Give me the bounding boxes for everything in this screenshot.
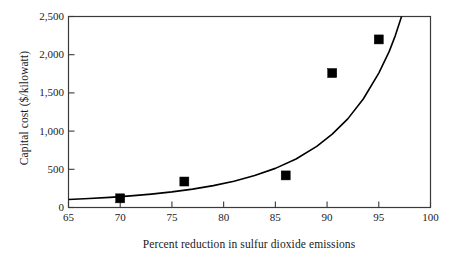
plot-frame [69, 17, 431, 208]
data-point-marker [180, 177, 189, 186]
tick-marks [69, 17, 431, 208]
axes-frame [69, 17, 431, 208]
fit-curve [69, 17, 402, 200]
fit-line [69, 17, 402, 200]
plot-area [0, 0, 458, 264]
data-point-marker [281, 171, 290, 180]
data-point-marker [374, 35, 383, 44]
data-point-marker [116, 194, 125, 203]
data-point-marker [328, 69, 337, 78]
chart-figure: Capital cost ($/kilowatt) 05001,0001,500… [0, 0, 458, 264]
